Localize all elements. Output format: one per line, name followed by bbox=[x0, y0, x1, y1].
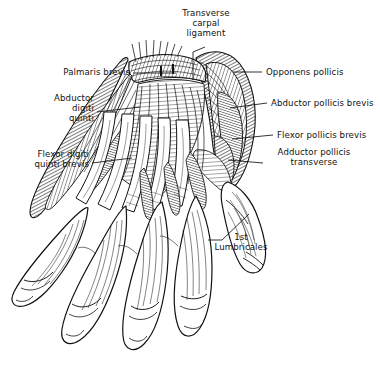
hand-outline-group bbox=[12, 40, 273, 350]
label-transverse-carpal-ligament: Transverse carpal ligament bbox=[165, 8, 247, 38]
label-flexor-pollicis-brevis: Flexor pollicis brevis bbox=[277, 130, 366, 140]
thumb-digit bbox=[221, 182, 265, 273]
label-palmaris-brevis: Palmaris brevis bbox=[34, 67, 130, 77]
label-abductor-pollicis-brevis: Abductor pollicis brevis bbox=[271, 98, 374, 108]
label-first-lumbricales: 1st Lumbricales bbox=[201, 232, 281, 252]
label-flexor-digiti-quinti-brevis: Flexor digiti quinti brevis bbox=[10, 149, 89, 169]
transverse-carpal-ligament-band bbox=[129, 40, 206, 82]
index-digit bbox=[174, 196, 212, 336]
label-abductor-digiti-quinti: Abductor digiti quinti bbox=[26, 93, 94, 123]
middle-digit bbox=[123, 202, 168, 350]
anatomy-figure: Transverse carpal ligament Palmaris brev… bbox=[0, 0, 380, 391]
label-opponens-pollicis: Opponens pollicis bbox=[266, 67, 344, 77]
label-adductor-pollicis-transverse: Adductor pollicis transverse bbox=[267, 147, 361, 167]
hand-anatomy-illustration bbox=[0, 0, 380, 391]
